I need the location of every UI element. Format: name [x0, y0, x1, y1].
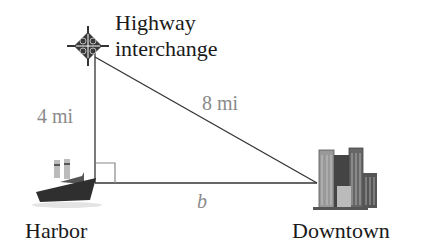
interchange-label-line2: interchange: [115, 38, 218, 60]
city-skyline-icon: [313, 148, 377, 210]
vertical-leg-measure: 4 mi: [37, 106, 73, 126]
harbor-label: Harbor: [25, 220, 87, 242]
right-angle-marker: [95, 163, 115, 183]
horizontal-leg-variable: b: [197, 191, 207, 211]
hypotenuse-line: [95, 57, 317, 183]
interchange-icon: [67, 26, 109, 66]
interchange-label-line1: Highway: [115, 12, 196, 34]
ship-icon: [32, 159, 102, 208]
hypotenuse-measure: 8 mi: [202, 93, 238, 113]
downtown-label: Downtown: [292, 220, 390, 242]
